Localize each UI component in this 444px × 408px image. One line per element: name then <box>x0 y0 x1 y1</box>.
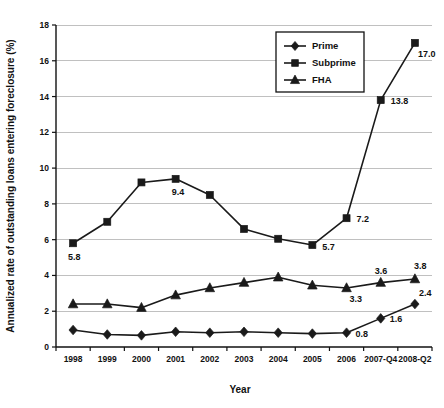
data-label: 9.4 <box>172 187 185 197</box>
legend-label: Subprime <box>312 57 356 68</box>
y-tick-label: 8 <box>44 199 49 209</box>
data-label: 0.8 <box>356 329 369 339</box>
data-label: 13.8 <box>391 96 409 106</box>
y-tick-label: 2 <box>44 306 49 316</box>
y-tick-label: 16 <box>40 56 50 66</box>
x-tick-label: 2001 <box>166 354 185 364</box>
y-tick-label: 12 <box>40 127 50 137</box>
data-point-square <box>343 215 350 222</box>
y-tick-label: 10 <box>40 163 50 173</box>
data-point-triangle <box>273 272 283 281</box>
data-label: 1.6 <box>390 314 403 324</box>
data-point-square <box>206 191 213 198</box>
data-point-diamond <box>206 328 214 338</box>
data-point-diamond <box>411 299 419 309</box>
x-tick-label: 2002 <box>200 354 219 364</box>
y-tick-label: 0 <box>44 342 49 352</box>
data-label: 2.4 <box>419 288 432 298</box>
data-label: 7.2 <box>357 214 370 224</box>
x-tick-label: 2000 <box>132 354 151 364</box>
chart-canvas: 024681012141618 199819992000200120022003… <box>0 0 444 408</box>
x-tick-label: 1999 <box>98 354 117 364</box>
data-label: 5.7 <box>322 242 335 252</box>
x-tick-label: 2008-Q2 <box>398 354 431 364</box>
x-tick-label: 2006 <box>337 354 356 364</box>
data-point-diamond <box>342 328 350 338</box>
data-point-diamond <box>69 325 77 335</box>
data-label: 3.3 <box>350 294 363 304</box>
data-point-diamond <box>274 328 282 338</box>
data-point-diamond <box>240 327 248 337</box>
x-axis-group: 1998199920002001200220032004200520062007… <box>56 347 432 364</box>
data-point-square <box>309 242 316 249</box>
x-tick-label: 2003 <box>235 354 254 364</box>
legend-label: Prime <box>312 40 338 51</box>
y-tick-label: 6 <box>44 235 49 245</box>
legend-group[interactable]: PrimeSubprimeFHA <box>276 32 364 92</box>
data-point-diamond <box>308 329 316 339</box>
data-point-square <box>172 175 179 182</box>
x-axis-title: Year <box>229 384 250 395</box>
y-tick-label: 4 <box>44 270 49 280</box>
data-point-diamond <box>172 327 180 337</box>
x-tick-label: 1998 <box>64 354 83 364</box>
data-point-square <box>138 179 145 186</box>
data-point-square <box>70 240 77 247</box>
x-tick-label: 2005 <box>303 354 322 364</box>
data-label: 17.0 <box>418 49 436 59</box>
legend-label: FHA <box>312 74 332 85</box>
x-tick-label: 2007-Q4 <box>364 354 397 364</box>
series-group <box>68 39 419 340</box>
data-labels-group: 0.81.62.45.89.45.77.213.817.03.33.63.8 <box>68 49 435 339</box>
foreclosure-rate-line-chart: 024681012141618 199819992000200120022003… <box>0 0 444 408</box>
y-tick-label: 14 <box>40 92 50 102</box>
data-point-square <box>104 218 111 225</box>
data-point-square <box>377 97 384 104</box>
data-label: 3.6 <box>375 266 388 276</box>
series-fha <box>68 272 419 311</box>
data-point-diamond <box>137 331 145 341</box>
data-label: 3.8 <box>414 261 427 271</box>
legend-marker-square-icon <box>292 60 299 67</box>
data-point-square <box>275 235 282 242</box>
data-label: 5.8 <box>68 252 81 262</box>
data-point-diamond <box>377 314 385 324</box>
x-tick-label: 2004 <box>269 354 288 364</box>
data-point-diamond <box>103 330 111 340</box>
y-axis-title: Annualized rate of outstanding loans ent… <box>5 39 16 332</box>
y-tick-label: 18 <box>40 20 50 30</box>
data-point-square <box>241 225 248 232</box>
y-axis-group: 024681012141618 <box>40 20 56 352</box>
data-point-square <box>411 39 418 46</box>
